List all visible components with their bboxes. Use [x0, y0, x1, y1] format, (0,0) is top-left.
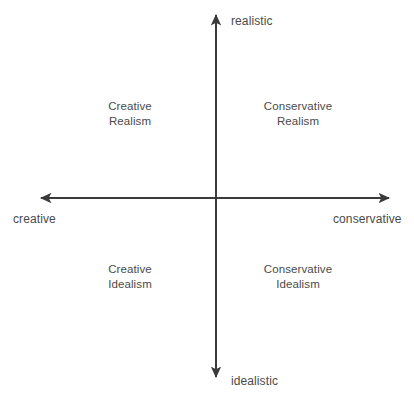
quadrant-label-line2: Realism — [60, 114, 200, 129]
axis-label-creative: creative — [13, 212, 56, 227]
quadrant-label-line1: Conservative — [228, 262, 368, 277]
axis-label-idealistic: idealistic — [231, 374, 278, 389]
quadrant-label-creative-idealism: Creative Idealism — [60, 262, 200, 292]
quadrant-label-line1: Creative — [60, 99, 200, 114]
quadrant-label-conservative-realism: Conservative Realism — [228, 99, 368, 129]
quadrant-label-line2: Idealism — [228, 277, 368, 292]
quadrant-label-line1: Creative — [60, 262, 200, 277]
quadrant-diagram: realistic idealistic creative conservati… — [0, 0, 414, 403]
axis-label-realistic: realistic — [231, 14, 273, 29]
quadrant-label-line2: Realism — [228, 114, 368, 129]
axes-group — [0, 0, 414, 403]
quadrant-label-line1: Conservative — [228, 99, 368, 114]
quadrant-label-conservative-idealism: Conservative Idealism — [228, 262, 368, 292]
quadrant-label-creative-realism: Creative Realism — [60, 99, 200, 129]
quadrant-label-line2: Idealism — [60, 277, 200, 292]
axis-label-conservative: conservative — [333, 212, 402, 227]
